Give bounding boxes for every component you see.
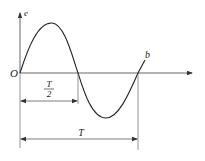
sine-period-diagram: O e b T 2 T xyxy=(0,0,205,161)
sine-curve xyxy=(20,23,145,118)
origin-label: O xyxy=(10,67,18,79)
half-period-numerator: T xyxy=(46,79,52,89)
diagram-svg: O e b T 2 T xyxy=(0,0,205,161)
full-period-label: T xyxy=(78,127,85,138)
y-axis-label: e xyxy=(24,8,28,18)
half-period-denominator: 2 xyxy=(47,89,52,99)
curve-end-label: b xyxy=(145,49,150,60)
